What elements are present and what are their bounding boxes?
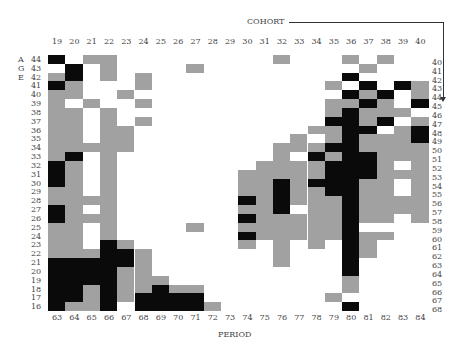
age-tick-label: 41 [31, 81, 41, 90]
cohort-right-tick-label: 55 [432, 190, 442, 199]
heatmap-cell [377, 143, 394, 152]
cohort-tick-label: 28 [208, 37, 218, 46]
age-tick-label: 26 [31, 214, 41, 223]
period-tick-label: 68 [139, 313, 149, 322]
heatmap-cell [342, 205, 359, 214]
heatmap-cell [411, 99, 428, 108]
heatmap-cell [273, 55, 290, 64]
cohort-right-tick-label: 57 [432, 208, 442, 217]
heatmap-cell [342, 143, 359, 152]
heatmap-cell [359, 99, 376, 108]
heatmap-cell [83, 285, 100, 294]
heatmap-cell [308, 232, 325, 241]
heatmap-cell [411, 81, 428, 90]
heatmap-cell [48, 170, 65, 179]
heatmap-cell [377, 187, 394, 196]
heatmap-cell [83, 276, 100, 285]
heatmap-cell [65, 187, 82, 196]
heatmap-cell [100, 55, 117, 64]
heatmap-cell [100, 267, 117, 276]
heatmap-cell [256, 187, 273, 196]
period-tick-label: 67 [121, 313, 131, 322]
heatmap-cell [325, 293, 342, 302]
heatmap-cell [135, 73, 152, 82]
heatmap-cell [325, 99, 342, 108]
heatmap-cell [359, 187, 376, 196]
heatmap-cell [411, 214, 428, 223]
age-tick-label: 30 [31, 179, 41, 188]
period-tick-label: 64 [69, 313, 79, 322]
heatmap-cell [394, 134, 411, 143]
heatmap-cell [359, 249, 376, 258]
heatmap-cell [411, 143, 428, 152]
heatmap-cell [65, 205, 82, 214]
cohort-tick-label: 29 [225, 37, 235, 46]
age-tick-label: 44 [31, 55, 41, 64]
heatmap-cell [186, 302, 203, 311]
heatmap-cell [325, 143, 342, 152]
heatmap-cell [273, 240, 290, 249]
heatmap-cell [273, 258, 290, 267]
age-tick-label: 36 [31, 126, 41, 135]
age-tick-label: 17 [31, 293, 41, 302]
heatmap-cell [290, 143, 307, 152]
cohort-right-tick-label: 64 [432, 270, 442, 279]
heatmap-cell [342, 161, 359, 170]
period-tick-label: 74 [242, 313, 252, 322]
heatmap-cell [48, 196, 65, 205]
cohort-axis-title: COHORT [247, 17, 284, 26]
cohort-tick-label: 31 [260, 37, 270, 46]
age-tick-label: 18 [31, 285, 41, 294]
heatmap-cell [273, 170, 290, 179]
age-tick-label: 42 [31, 73, 41, 82]
heatmap-cell [342, 152, 359, 161]
heatmap-cell [308, 187, 325, 196]
age-tick-label: 31 [31, 170, 41, 179]
heatmap-cell [273, 214, 290, 223]
cohort-right-tick-label: 60 [432, 235, 442, 244]
heatmap-cell [65, 73, 82, 82]
heatmap-cell [100, 302, 117, 311]
heatmap-cell [83, 293, 100, 302]
age-title-letter: E [18, 73, 24, 82]
heatmap-cell [100, 126, 117, 135]
heatmap-cell [238, 214, 255, 223]
period-tick-label: 77 [294, 313, 304, 322]
heatmap-cell [48, 134, 65, 143]
cohort-right-tick-label: 62 [432, 252, 442, 261]
cohort-tick-label: 20 [69, 37, 79, 46]
heatmap-cell [117, 90, 134, 99]
heatmap-cell [48, 240, 65, 249]
heatmap-cell [100, 117, 117, 126]
age-tick-label: 21 [31, 258, 41, 267]
period-tick-label: 75 [260, 313, 270, 322]
heatmap-cell [117, 249, 134, 258]
heatmap-cell [256, 179, 273, 188]
period-tick-label: 65 [87, 313, 97, 322]
heatmap-cell [204, 302, 221, 311]
heatmap-cell [48, 143, 65, 152]
heatmap-cell [308, 196, 325, 205]
cohort-arrow-line [289, 22, 443, 23]
heatmap-cell [308, 205, 325, 214]
heatmap-cell [83, 267, 100, 276]
heatmap-cell [342, 276, 359, 285]
heatmap-cell [342, 196, 359, 205]
heatmap-cell [325, 223, 342, 232]
heatmap-cell [308, 126, 325, 135]
heatmap-cell [48, 205, 65, 214]
cohort-right-tick-label: 53 [432, 173, 442, 182]
heatmap-cell [273, 205, 290, 214]
cohort-right-tick-label: 47 [432, 120, 442, 129]
heatmap-cell [135, 81, 152, 90]
heatmap-cell [65, 134, 82, 143]
heatmap-cell [48, 187, 65, 196]
period-tick-label: 83 [398, 313, 408, 322]
heatmap-cell [290, 214, 307, 223]
heatmap-cell [186, 293, 203, 302]
heatmap-cell [411, 196, 428, 205]
age-tick-label: 22 [31, 249, 41, 258]
heatmap-cell [394, 143, 411, 152]
heatmap-cell [359, 143, 376, 152]
heatmap-cell [359, 170, 376, 179]
